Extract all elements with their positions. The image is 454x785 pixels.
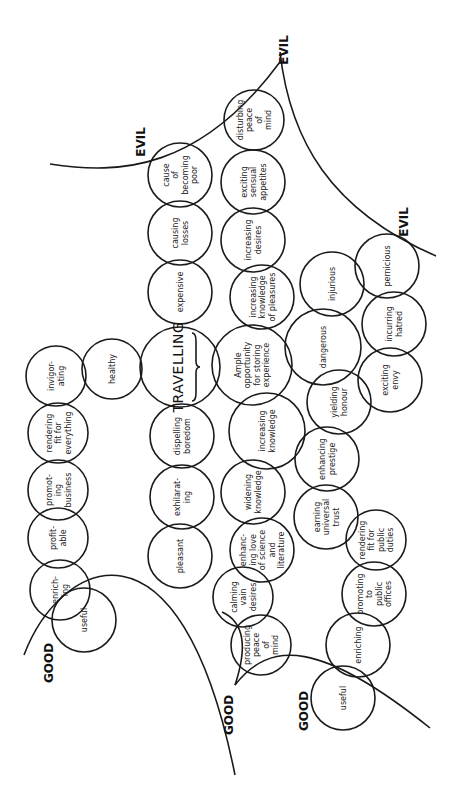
node-exciting-envy: excitingenvy (358, 348, 422, 412)
node-disturbing-peace-of-mind: disturbingpeaceofmind (224, 90, 284, 150)
node-label: disturbingpeaceofmind (236, 100, 274, 140)
node-label: healthy (108, 354, 117, 384)
node-label: yieldinghonour (330, 386, 349, 418)
node-label: pleasant (176, 539, 185, 573)
node-label: useful (80, 608, 89, 632)
node-label: expensive (176, 272, 185, 313)
node-injurious: injurious (300, 252, 364, 316)
node-expensive: expensive (148, 260, 212, 324)
node-label: useful (339, 686, 348, 710)
good-label-middle: GOOD (222, 695, 236, 735)
good-label-left: GOOD (42, 643, 56, 683)
node-label: dispellingboredom (173, 417, 192, 455)
travelling-diagram: EVIL EVIL EVIL GOOD GOOD GOOD causeofbec… (0, 0, 454, 785)
node-invigorating: invigor-ating (26, 346, 86, 406)
node-increasing-desires: increasingdesires (221, 208, 285, 272)
node-widening-knowledge: wideningknowledge (221, 460, 285, 524)
node-earning-universal-trust: earninguniversaltrust (294, 485, 358, 549)
node-label: increasingknowledgeof pleasures (249, 273, 277, 322)
node-label: invigor-ating (47, 361, 66, 391)
node-rendering-fit-for-public-duties: renderingfit forpublicduties (346, 510, 406, 570)
good-boundary-middle (222, 612, 242, 685)
node-label: profit-able (49, 526, 68, 550)
node-label: Ampleopportunityfor storingexperience (234, 341, 272, 388)
evil-label-right: EVIL (397, 207, 411, 237)
node-label: wideningknowledge (244, 470, 263, 513)
node-label: excitingsensualappetites (240, 163, 268, 201)
evil-label-corner: EVIL (277, 35, 291, 65)
node-ample-opportunity: Ampleopportunityfor storingexperience (212, 325, 292, 405)
node-promoting-business: promot-ingbusiness (28, 460, 88, 520)
node-label: renderingfit foreverything (45, 411, 73, 454)
node-increasing-knowledge: increasingknowledge (229, 393, 305, 469)
evil-label-top: EVIL (134, 127, 148, 157)
good-label-bottom: GOOD (297, 691, 311, 731)
node-yielding-honour: yieldinghonour (307, 370, 371, 434)
node-pernicious: pernicious (355, 234, 419, 298)
node-label: excitingenvy (381, 364, 400, 396)
node-label: pernicious (383, 245, 392, 286)
node-label: exhilarat-ing (173, 478, 192, 516)
title-brace-icon (192, 333, 200, 401)
node-causing-losses: causinglosses (148, 201, 212, 265)
node-group: causeofbecomingpoorcausinglossesexpensiv… (26, 90, 426, 730)
node-travelling: TRAVELLING (140, 322, 220, 414)
node-label: producingpeaceofmind (243, 625, 281, 665)
node-dispelling-boredom: dispellingboredom (150, 404, 214, 468)
node-label: enriching (354, 626, 363, 663)
node-label: enrich-ing (51, 576, 70, 604)
node-label: causeofbecomingpoor (162, 155, 200, 194)
node-increasing-knowledge-of-pleasures: increasingknowledgeof pleasures (230, 265, 294, 329)
node-producing-peace-of-mind: producingpeaceofmind (231, 615, 291, 675)
node-enhancing-prestige: enhancingprestige (295, 427, 359, 491)
node-label: renderingfit forpublicduties (358, 521, 396, 560)
node-healthy: healthy (82, 339, 142, 399)
node-label: increasingdesires (244, 219, 263, 260)
node-enhancing-love-of-science: enhanc-ing loveof scienceandliterature (230, 518, 294, 582)
node-label: causinglosses (171, 218, 190, 249)
node-label: increasingknowledge (258, 409, 277, 452)
node-label: earninguniversaltrust (313, 499, 341, 536)
good-boundary-bottom (235, 655, 430, 728)
node-label: promot-ingbusiness (45, 473, 73, 508)
node-label: enhanc-ing loveof scienceandliterature (239, 530, 286, 570)
node-useful-bottom: useful (311, 666, 375, 730)
node-exciting-sensual-appetites: excitingsensualappetites (221, 150, 285, 214)
node-label: incurringhatred (385, 306, 404, 342)
node-label: injurious (328, 267, 337, 301)
node-profitable: profit-able (28, 508, 88, 568)
node-pleasant: pleasant (148, 524, 212, 588)
node-label: enhancingprestige (318, 438, 337, 480)
node-incurring-hatred: incurringhatred (362, 292, 426, 356)
node-cause-of-becoming-poor: causeofbecomingpoor (148, 143, 212, 207)
node-rendering-fit-for-everything: renderingfit foreverything (28, 403, 88, 463)
node-label: dangerous (319, 326, 328, 368)
node-label: promotingtopublicoffices (356, 573, 394, 614)
node-label: TRAVELLING (170, 322, 186, 414)
node-label: calmingvaindesires (230, 581, 258, 613)
node-exhilarating: exhilarat-ing (150, 465, 214, 529)
evil-boundary-corner (280, 52, 436, 256)
